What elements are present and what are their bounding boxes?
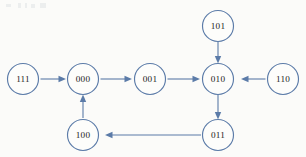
node-111-label: 111 [16,74,30,84]
node-101-label: 101 [211,21,226,31]
node-000-label: 000 [76,74,91,84]
edge-000-to-001 [101,76,133,82]
node-110-label: 110 [276,74,290,84]
edge-100-to-000 [80,95,86,119]
node-011[interactable]: 011 [203,120,234,151]
diagram-canvas: 111 000 001 010 110 101 [0,0,306,157]
node-100[interactable]: 100 [68,120,99,151]
edge-001-to-010 [168,76,201,82]
node-001-label: 001 [143,74,158,84]
node-000[interactable]: 000 [68,64,99,95]
node-101[interactable]: 101 [203,11,234,42]
edge-101-to-010 [215,42,221,64]
node-layer: 111 000 001 010 110 101 [8,11,299,151]
node-011-label: 011 [211,130,225,140]
node-010-label: 010 [211,74,226,84]
node-111[interactable]: 111 [8,64,39,95]
node-110[interactable]: 110 [268,64,299,95]
edge-111-to-000 [41,76,67,82]
state-transition-graph: 111 000 001 010 110 101 [0,0,306,157]
edge-110-to-010 [241,76,266,82]
edge-011-to-100 [105,132,201,138]
edge-010-to-011 [215,95,221,120]
node-001[interactable]: 001 [135,64,166,95]
node-100-label: 100 [76,130,91,140]
node-010[interactable]: 010 [203,64,234,95]
